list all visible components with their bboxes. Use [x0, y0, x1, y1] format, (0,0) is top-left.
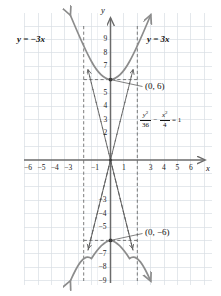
- x-tick-neg6: −6: [24, 163, 32, 172]
- origin-dot: [109, 158, 112, 161]
- y-tick-4: 4: [104, 101, 108, 110]
- y-tick-7: 7: [104, 61, 108, 70]
- y-tick-neg7: −7: [99, 249, 107, 258]
- asymptote-left-label: y = −3x: [17, 34, 45, 44]
- vertex-upper-label: (0, 6): [145, 81, 165, 91]
- y-tick-8: 8: [104, 48, 108, 57]
- y-tick-3: 3: [104, 115, 108, 124]
- equation-operator: −: [154, 116, 158, 124]
- equation-numerator-2: x2: [160, 110, 170, 120]
- hyperbola-figure: y = −3x y = 3x (0, 6) (0, −6) x y y2 36 …: [0, 0, 221, 296]
- y-tick-neg4: −4: [99, 209, 107, 218]
- x-tick-neg4: −4: [51, 163, 59, 172]
- x-tick-neg3: −3: [64, 163, 72, 172]
- graph-canvas: [0, 0, 221, 296]
- x-tick-3: 3: [149, 163, 153, 172]
- y-tick-neg3: −3: [99, 195, 107, 204]
- equation-numerator-1: y2: [141, 110, 151, 120]
- equation-equals: = 1: [172, 116, 181, 124]
- x-axis-label: x: [206, 163, 210, 173]
- x-tick-1: 1: [122, 163, 126, 172]
- y-tick-neg9: −9: [99, 276, 107, 285]
- hyperbola-equation-label: y2 36 − x2 4 = 1: [139, 110, 183, 129]
- equation-denominator-1: 36: [140, 122, 151, 129]
- y-tick-neg5: −5: [99, 222, 107, 231]
- equation-denominator-2: 4: [161, 122, 169, 129]
- x-tick-6: 6: [189, 163, 193, 172]
- y-tick-2: 2: [104, 128, 108, 137]
- y-axis-label: y: [101, 5, 105, 15]
- y-tick-9: 9: [104, 34, 108, 43]
- y-tick-5: 5: [104, 88, 108, 97]
- equation-fraction-1: y2 36: [140, 110, 151, 129]
- equation-fraction-2: x2 4: [160, 110, 170, 129]
- x-tick-4: 4: [162, 163, 166, 172]
- x-tick-5: 5: [176, 163, 180, 172]
- vertex-lower-label: (0, −6): [145, 227, 170, 237]
- x-tick-neg1: −1: [91, 163, 99, 172]
- asymptote-right-label: y = 3x: [147, 34, 170, 44]
- x-tick-neg5: −5: [38, 163, 46, 172]
- y-tick-neg8: −8: [99, 262, 107, 271]
